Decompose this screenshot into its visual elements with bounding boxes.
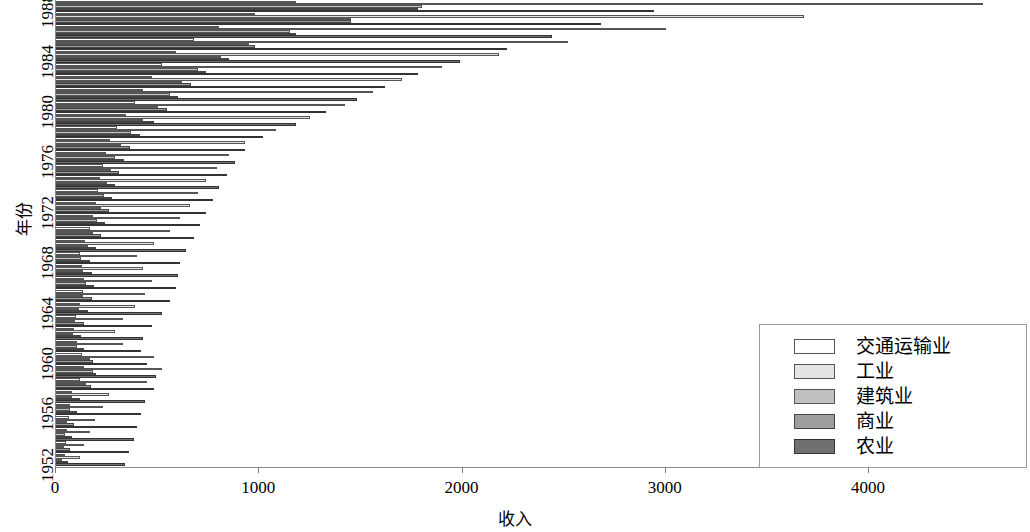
x-tick-mark — [665, 467, 666, 473]
bar — [56, 262, 180, 264]
bar — [56, 86, 385, 88]
bar — [56, 123, 296, 125]
bar — [56, 426, 137, 428]
bar — [56, 224, 200, 226]
legend-swatch — [794, 389, 835, 404]
x-tick-mark — [55, 467, 56, 473]
bar — [56, 35, 552, 37]
bar — [56, 325, 152, 327]
legend-label: 商业 — [856, 412, 894, 431]
bar — [56, 287, 176, 289]
x-tick-label: 0 — [51, 478, 60, 498]
bar — [56, 136, 263, 138]
legend-label: 建筑业 — [856, 387, 913, 406]
bar — [56, 111, 326, 113]
bar — [56, 388, 154, 390]
legend-swatch — [794, 439, 835, 454]
legend-label: 交通运输业 — [856, 337, 951, 356]
bar — [56, 48, 507, 50]
bar — [56, 438, 134, 440]
bar — [56, 350, 141, 352]
x-tick-label: 4000 — [851, 478, 885, 498]
bar — [56, 199, 213, 201]
x-axis-label: 收入 — [0, 505, 1030, 530]
legend-swatch — [794, 339, 835, 354]
bar — [56, 400, 145, 402]
legend: 交通运输业工业建筑业商业农业 — [759, 324, 1027, 468]
x-tick-label: 2000 — [445, 478, 479, 498]
chart-figure: 年份 1952195619601964196819721976198019841… — [0, 0, 1030, 532]
bar — [56, 300, 170, 302]
bar — [56, 60, 460, 62]
bar — [56, 23, 601, 25]
legend-item: 交通运输业 — [760, 334, 1026, 359]
legend-item: 工业 — [760, 359, 1026, 384]
bar — [56, 249, 186, 251]
bar — [56, 237, 194, 239]
legend-item: 农业 — [760, 434, 1026, 459]
legend-swatch — [794, 364, 835, 379]
bar — [56, 73, 418, 75]
legend-label: 农业 — [856, 437, 894, 456]
x-tick-mark — [462, 467, 463, 473]
bar — [56, 274, 178, 276]
legend-label: 工业 — [856, 362, 894, 381]
bar — [56, 149, 245, 151]
x-tick-mark — [258, 467, 259, 473]
bar — [56, 98, 357, 100]
bar — [56, 212, 206, 214]
bar — [56, 363, 147, 365]
bar — [56, 337, 143, 339]
bar — [56, 312, 162, 314]
bar — [56, 174, 227, 176]
bar — [56, 451, 129, 453]
bar — [56, 186, 219, 188]
bar — [56, 463, 125, 465]
legend-swatch — [794, 414, 835, 429]
bar — [56, 161, 235, 163]
legend-item: 建筑业 — [760, 384, 1026, 409]
y-axis-label: 年份 — [10, 179, 35, 259]
legend-item: 商业 — [760, 409, 1026, 434]
bar — [56, 413, 141, 415]
x-tick-label: 3000 — [648, 478, 682, 498]
bar — [56, 375, 156, 377]
bar — [56, 10, 654, 12]
x-tick-label: 1000 — [241, 478, 275, 498]
